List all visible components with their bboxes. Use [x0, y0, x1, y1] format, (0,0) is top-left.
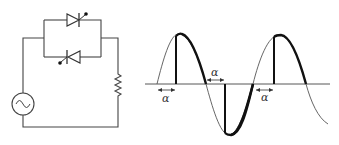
- alpha-label-3: α: [261, 91, 269, 104]
- circuit-diagram: α α α: [0, 0, 339, 145]
- alpha-label-1: α: [162, 92, 170, 105]
- ac-source-icon: [12, 93, 34, 115]
- waveform: α α α: [145, 34, 330, 135]
- output-wave-positive-1: [176, 34, 206, 84]
- alpha-label-2: α: [211, 66, 219, 79]
- resistor-icon: [115, 72, 121, 98]
- circuit: [23, 20, 118, 127]
- output-wave-positive-2: [274, 35, 306, 84]
